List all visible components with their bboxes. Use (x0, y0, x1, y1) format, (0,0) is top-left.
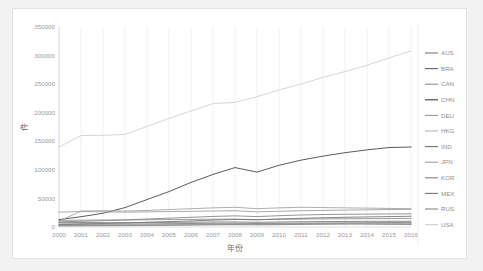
x-axis-title: 年份 (227, 243, 243, 253)
y-axis-tick-label: 0 (52, 223, 56, 230)
y-axis-tick-label: 200000 (34, 109, 55, 116)
x-axis-tick-label: 2013 (338, 231, 352, 238)
x-axis-tick-label: 2008 (228, 231, 242, 238)
legend-label-deu[interactable]: DEU (441, 112, 454, 119)
line-chart-card: 0500001000001500002000002500003000003500… (12, 8, 467, 259)
legend-label-mex[interactable]: MEX (441, 190, 454, 197)
y-axis-tick-label: 150000 (34, 137, 55, 144)
legend-label-usa[interactable]: USA (441, 221, 455, 228)
y-axis-tick-label: 50000 (38, 195, 56, 202)
legend-label-hkg[interactable]: HKG (441, 127, 455, 134)
legend-label-can[interactable]: CAN (441, 80, 454, 87)
legend-label-bra[interactable]: BRA (441, 65, 455, 72)
x-axis-tick-label: 2003 (118, 231, 132, 238)
legend-label-kor[interactable]: KOR (441, 174, 455, 181)
y-axis-tick-label: 100000 (34, 166, 55, 173)
x-axis-tick-label: 2000 (52, 231, 66, 238)
x-axis-tick-label: 2001 (74, 231, 88, 238)
y-axis-tick-label: 250000 (34, 80, 55, 87)
legend-label-rus[interactable]: RUS (441, 205, 454, 212)
legend-label-aus[interactable]: AUS (441, 49, 454, 56)
x-axis-tick-label: 2016 (404, 231, 418, 238)
x-axis-tick-label: 2005 (162, 231, 176, 238)
legend-label-jpn[interactable]: JPN (441, 158, 453, 165)
x-axis-tick-label: 2011 (294, 231, 308, 238)
legend-label-ind[interactable]: IND (441, 143, 452, 150)
y-axis-title: 件 (19, 123, 29, 131)
x-axis-tick-label: 2009 (250, 231, 264, 238)
x-axis-tick-label: 2004 (140, 231, 154, 238)
x-axis-tick-label: 2014 (360, 231, 374, 238)
chart-plot-area: 0500001000001500002000002500003000003500… (13, 9, 468, 260)
x-axis-tick-label: 2007 (206, 231, 220, 238)
x-axis-tick-label: 2002 (96, 231, 110, 238)
x-axis-tick-label: 2015 (382, 231, 396, 238)
legend-label-chn[interactable]: CHN (441, 96, 454, 103)
y-axis-tick-label: 350000 (34, 23, 55, 30)
y-axis-tick-label: 300000 (34, 52, 55, 59)
x-axis-tick-label: 2006 (184, 231, 198, 238)
line-chart-svg: 0500001000001500002000002500003000003500… (13, 9, 468, 260)
x-axis-tick-label: 2010 (272, 231, 286, 238)
x-axis-tick-label: 2012 (316, 231, 330, 238)
